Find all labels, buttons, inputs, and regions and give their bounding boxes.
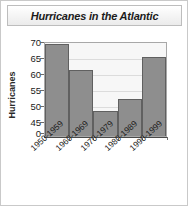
y-tick-mark bbox=[40, 90, 44, 91]
y-tick-mark bbox=[40, 133, 44, 134]
chart-figure: Hurricanes in the Atlantic Hurricanes 70… bbox=[0, 0, 188, 206]
y-tick-mark bbox=[40, 74, 44, 75]
y-tick-mark bbox=[40, 106, 44, 107]
y-tick-mark bbox=[40, 58, 44, 59]
y-tick-mark bbox=[40, 42, 44, 43]
x-axis-tick-labels: 1950-19591960-19691970-19791980-19891990… bbox=[1, 1, 188, 206]
y-tick-mark bbox=[40, 122, 44, 123]
